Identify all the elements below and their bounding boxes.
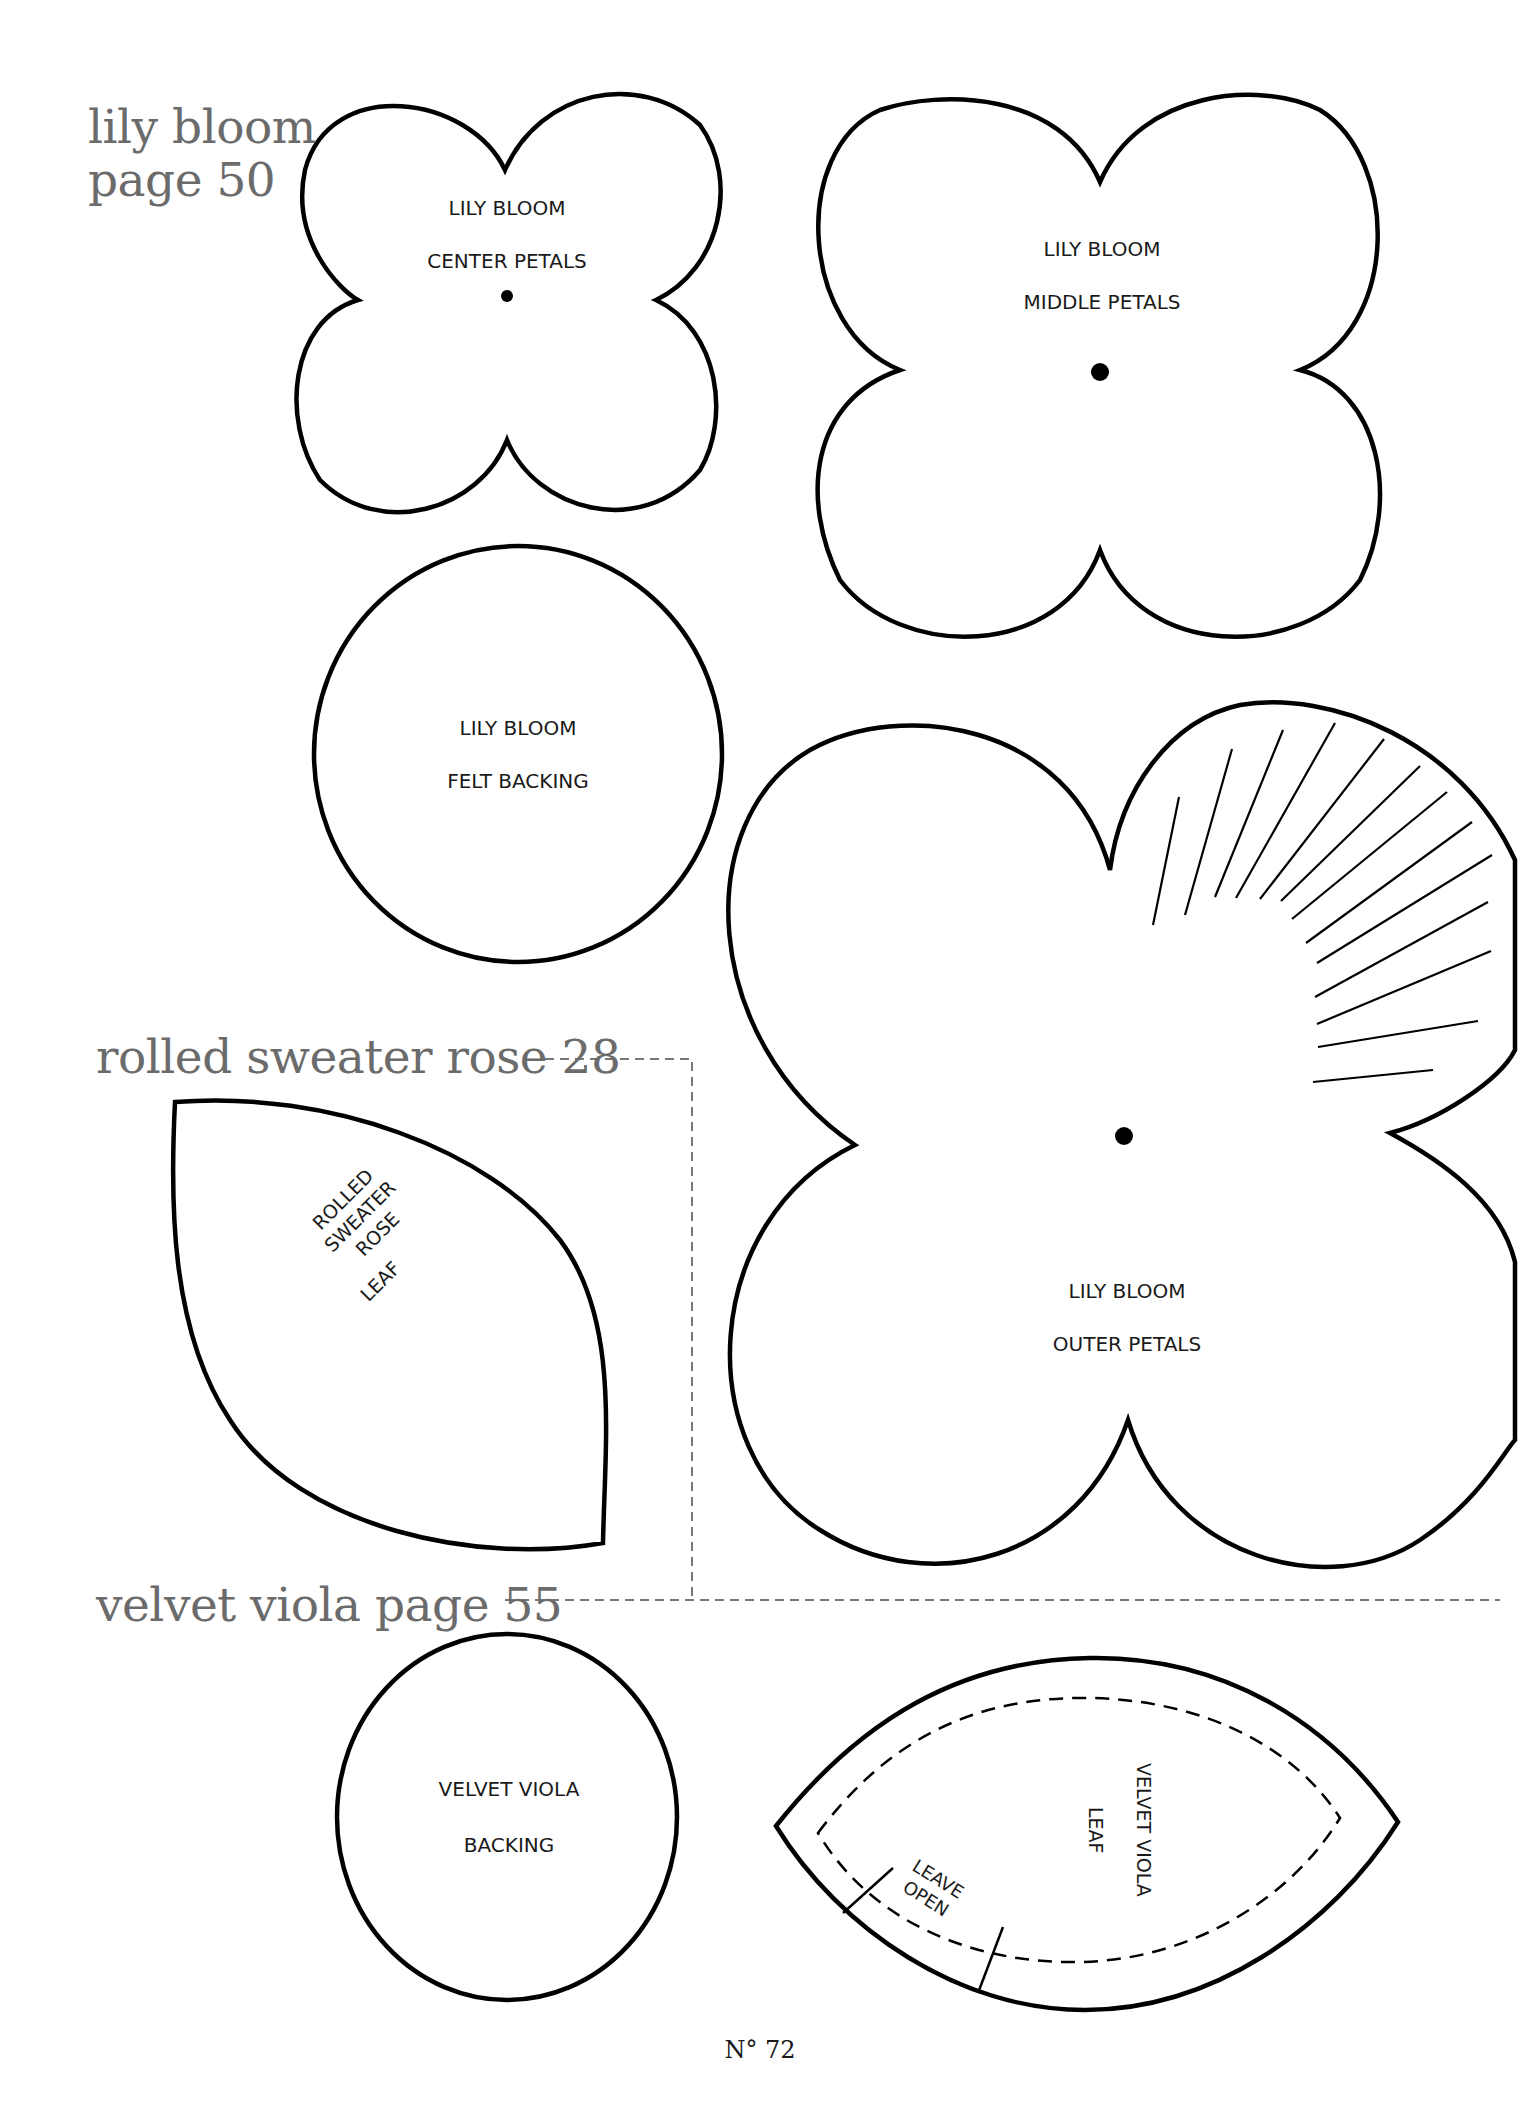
- page-number: N° 72: [724, 2036, 795, 2064]
- lily-center-subtitle: CENTER PETALS: [427, 249, 587, 273]
- fringe-lines: [1153, 723, 1492, 1082]
- center-dot-icon: [1091, 363, 1109, 381]
- viola-backing-subtitle: BACKING: [464, 1833, 555, 1857]
- section-divider: [505, 1059, 1500, 1600]
- lily-felt-subtitle: FELT BACKING: [447, 769, 589, 793]
- heading-lily-bloom: lily bloom page 50: [88, 100, 316, 206]
- lily-felt-title: LILY BLOOM: [460, 716, 577, 740]
- lily-outer-title: LILY BLOOM: [1069, 1279, 1186, 1303]
- heading-line: page 50: [88, 153, 316, 206]
- heading-line: lily bloom: [88, 100, 316, 153]
- template-page: lily bloom page 50 rolled sweater rose 2…: [0, 0, 1520, 2109]
- lily-middle-title: LILY BLOOM: [1044, 237, 1161, 261]
- viola-backing-title: VELVET VIOLA: [439, 1777, 580, 1801]
- lily-middle-subtitle: MIDDLE PETALS: [1024, 290, 1181, 314]
- lily-outer-subtitle: OUTER PETALS: [1053, 1332, 1201, 1356]
- viola-leaf-subtitle: LEAF: [1085, 1807, 1107, 1854]
- heading-velvet-viola: velvet viola page 55: [96, 1578, 562, 1631]
- viola-backing-outline: [337, 1634, 677, 2000]
- heading-rolled-sweater-rose: rolled sweater rose 28: [96, 1030, 620, 1083]
- center-dot-icon: [1115, 1127, 1133, 1145]
- center-dot-icon: [501, 290, 513, 302]
- lily-center-title: LILY BLOOM: [449, 196, 566, 220]
- viola-leaf-title: VELVET VIOLA: [1133, 1763, 1155, 1897]
- lily-center-petals-outline: [296, 94, 720, 512]
- viola-leaf-seam-line: [818, 1698, 1340, 1962]
- lily-felt-backing-outline: [314, 546, 722, 962]
